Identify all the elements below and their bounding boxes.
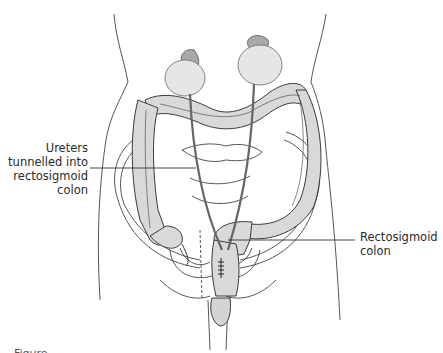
label-line: rectosigmoid — [8, 169, 88, 183]
kidney-left — [238, 45, 282, 85]
body-outline-left — [98, 14, 128, 300]
label-ureters-tunnelled: Ureters tunnelled into rectosigmoid colo… — [8, 141, 88, 197]
label-rectosigmoid-colon: Rectosigmoid colon — [360, 230, 438, 258]
figure-caption-partial: Figure — [14, 347, 48, 353]
label-line: colon — [8, 183, 88, 197]
anatomy-figure: Ureters tunnelled into rectosigmoid colo… — [0, 0, 443, 353]
kidney-right — [165, 60, 205, 96]
label-line: Rectosigmoid — [360, 230, 438, 244]
label-line: colon — [360, 244, 438, 258]
label-line: Ureters — [8, 141, 88, 155]
label-line: tunnelled into — [8, 155, 88, 169]
